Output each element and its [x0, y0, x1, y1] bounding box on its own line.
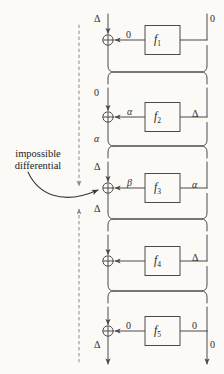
round-1-feed-label: 0 [126, 30, 131, 40]
output-right-label: 0 [210, 340, 215, 350]
f3-box [145, 174, 180, 203]
round-5-right-label: 0 [192, 321, 197, 331]
round-2-bottom-left-label: α [94, 134, 99, 144]
round-1-top-right-label: 0 [210, 14, 215, 24]
f2-box [145, 103, 180, 132]
f5-box [145, 317, 180, 346]
round-3-bottom-left-label: Δ [94, 204, 100, 214]
f4-index: 4 [157, 260, 161, 269]
round-4-right-label: Δ [192, 253, 198, 263]
annotation-pointer-curve [28, 172, 98, 197]
round-3-top-left-label: Δ [94, 162, 100, 172]
f5-index: 5 [157, 330, 161, 339]
f4-box [145, 247, 180, 276]
round-2-feed-label: α [127, 107, 132, 117]
xor-2 [103, 112, 113, 122]
round-5-feed-label: 0 [126, 321, 131, 331]
f4-label: f4 [154, 254, 161, 269]
round-1-top-left-label: Δ [94, 14, 100, 24]
f1-index: 1 [157, 39, 161, 48]
f1-box [145, 26, 180, 55]
output-left-label: Δ [94, 340, 100, 350]
round-2-top-left-label: 0 [94, 88, 99, 98]
f2-index: 2 [157, 116, 161, 125]
xor-3 [103, 183, 113, 193]
xor-5 [103, 326, 113, 336]
round-3-feed-label: β [127, 178, 132, 188]
xor-4 [103, 256, 113, 266]
impossible-differential-annotation: impossible differential [4, 148, 72, 173]
f3-index: 3 [157, 187, 161, 196]
round-2-right-label: Δ [192, 109, 198, 119]
f2-label: f2 [154, 110, 161, 125]
annotation-line-1: impossible [4, 148, 72, 160]
annotation-line-2: differential [4, 160, 72, 172]
round-3-right-label: α [192, 180, 197, 190]
feistel-diagram-svg [0, 0, 224, 374]
f3-label: f3 [154, 181, 161, 196]
impossible-differential-figure: Δ 0 0 f1 0 α Δ α f2 Δ β α Δ f3 Δ f4 0 0 … [0, 0, 224, 374]
xor-1 [103, 35, 113, 45]
f5-label: f5 [154, 324, 161, 339]
f1-label: f1 [154, 33, 161, 48]
